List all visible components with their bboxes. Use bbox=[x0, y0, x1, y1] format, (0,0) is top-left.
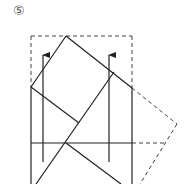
lower-right-diagonal-line bbox=[66, 143, 121, 184]
long-diagonal-line bbox=[36, 72, 114, 184]
solid-edge-lines bbox=[31, 36, 132, 184]
top-left-fold-line bbox=[31, 36, 66, 87]
inner-left-diagonal-line bbox=[31, 87, 79, 123]
origami-step-diagram: ⑤ bbox=[0, 0, 190, 184]
arrows bbox=[43, 55, 109, 162]
flap-upper-dashed-line bbox=[132, 88, 177, 124]
top-right-fold-line bbox=[66, 36, 132, 88]
flap-lower-dashed-line bbox=[140, 124, 177, 184]
fold-diagram bbox=[0, 0, 190, 184]
dashed-fold-lines bbox=[31, 36, 177, 184]
